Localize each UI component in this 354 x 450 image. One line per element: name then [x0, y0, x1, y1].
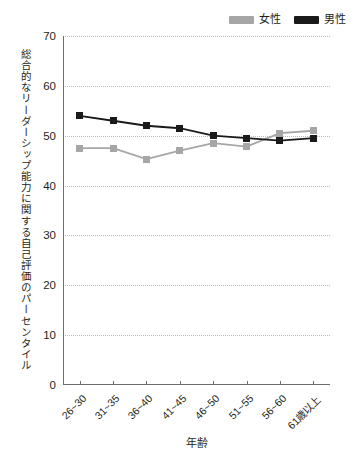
- y-tick-label: 30: [43, 229, 56, 241]
- legend-item-male: 男性: [294, 14, 346, 25]
- x-tick-label: 41~45: [159, 392, 188, 421]
- x-tick-label: 61歳以上: [284, 392, 324, 432]
- y-tick-label: 0: [50, 379, 56, 391]
- data-point-marker: [143, 156, 150, 163]
- y-tick-label: 60: [43, 80, 56, 92]
- data-point-marker: [276, 137, 283, 144]
- data-point-marker: [310, 135, 317, 142]
- data-point-marker: [276, 130, 283, 137]
- data-point-marker: [210, 132, 217, 139]
- data-point-marker: [76, 145, 83, 152]
- data-point-marker: [110, 117, 117, 124]
- y-tick-label: 50: [43, 130, 56, 142]
- y-tick-label: 40: [43, 180, 56, 192]
- data-point-marker: [243, 143, 250, 150]
- y-tick-label: 10: [43, 329, 56, 341]
- y-tick-label: 20: [43, 279, 56, 291]
- data-point-marker: [143, 122, 150, 129]
- legend-item-female: 女性: [229, 14, 281, 25]
- data-point-marker: [176, 125, 183, 132]
- x-tick-label: 56~60: [259, 392, 288, 421]
- x-tick-label: 36~40: [126, 392, 155, 421]
- legend-swatch-female-icon: [229, 16, 254, 24]
- x-tick-label: 51~55: [226, 392, 255, 421]
- x-axis-title: 年齢: [63, 434, 330, 450]
- y-tick-label: 70: [43, 30, 56, 42]
- x-tick-label: 26~30: [59, 392, 88, 421]
- x-tick-label: 31~35: [92, 392, 121, 421]
- legend-swatch-male-icon: [294, 16, 319, 24]
- data-point-marker: [110, 145, 117, 152]
- data-point-marker: [310, 127, 317, 134]
- data-point-marker: [243, 135, 250, 142]
- x-tick-label: 46~50: [192, 392, 221, 421]
- legend-label-female: 女性: [259, 14, 281, 25]
- data-point-marker: [176, 147, 183, 154]
- data-point-marker: [210, 140, 217, 147]
- chart-legend: 女性 男性: [229, 14, 346, 25]
- legend-label-male: 男性: [324, 14, 346, 25]
- plot-area: 010203040506070 26~3031~3536~4041~4546~5…: [63, 36, 330, 385]
- series-layer: [63, 36, 330, 385]
- data-point-marker: [76, 112, 83, 119]
- y-axis-title: 総合的なリーダーシップ能力に関する自己評価のパーセンタイル: [12, 40, 30, 380]
